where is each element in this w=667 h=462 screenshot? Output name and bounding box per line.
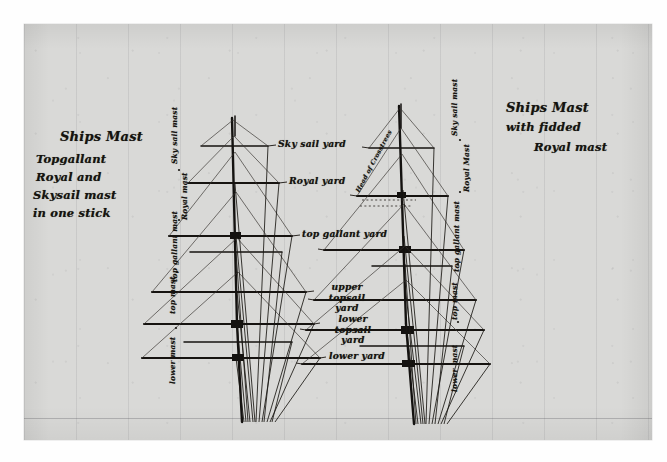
- yard-label-topgallant: top gallant yard: [302, 228, 387, 239]
- left-mast-label-royal-mast: Royal mast: [180, 172, 189, 220]
- yard-label-upper-topsail-line1: upper topsail: [329, 281, 365, 303]
- yard-label-upper-topsail-line2: yard: [335, 302, 358, 313]
- left-mast-label-lower-mast: lower mast: [168, 337, 177, 384]
- left-mast-label-topgallant-mast: top gallant mast: [170, 211, 179, 282]
- yard-label-lower-topsail-line1: lower topsail: [335, 313, 371, 335]
- right-caption-line-3: Royal mast: [534, 140, 607, 156]
- left-caption-title: Ships Mast: [60, 129, 143, 145]
- left-mast-label-skysail-mast: Sky sail mast: [170, 107, 179, 164]
- right-mast-label-skysail-mast: Sky sail mast: [450, 79, 459, 136]
- yard-label-lower-topsail: lower topsail yard: [322, 314, 384, 346]
- yard-label-lower: lower yard: [329, 350, 385, 361]
- right-mast-label-topmast: top mast: [450, 282, 459, 320]
- paper-sheet: Ships Mast Topgallant Royal and Skysail …: [24, 24, 652, 440]
- screenshot-canvas: Ships Mast Topgallant Royal and Skysail …: [0, 0, 667, 462]
- yard-label-royal: Royal yard: [289, 175, 345, 186]
- right-mast-label-topgallant-mast: top gallant mast: [452, 201, 461, 272]
- yard-label-upper-topsail: upper topsail yard: [316, 282, 378, 314]
- yard-label-skysail: Sky sail yard: [278, 138, 346, 149]
- left-caption-line-4: in one stick: [33, 206, 111, 222]
- right-mast-label-royal-mast: Royal Mast: [462, 144, 471, 192]
- yard-label-lower-topsail-line2: yard: [341, 334, 364, 345]
- left-caption-line-1: Topgallant: [36, 152, 106, 168]
- right-caption-line-1: Ships Mast: [506, 100, 589, 116]
- right-caption-line-2: with fidded: [506, 120, 581, 136]
- left-caption-line-2: Royal and: [36, 170, 101, 186]
- left-mast-label-topmast: top mast: [168, 276, 177, 314]
- right-mast-label-lower-mast: lower mast: [450, 345, 459, 392]
- left-caption-line-3: Skysail mast: [33, 188, 116, 204]
